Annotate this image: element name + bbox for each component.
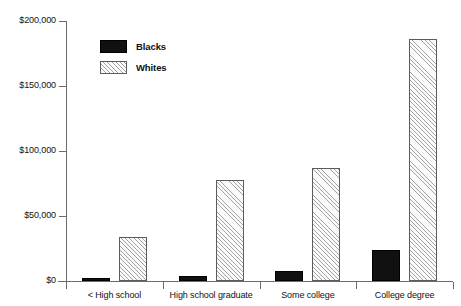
- y-axis-tick-label: $0: [0, 275, 56, 285]
- x-axis-category-label: High school graduate: [163, 290, 260, 300]
- x-axis-tick: [356, 282, 357, 289]
- chart-legend: Blacks Whites: [100, 38, 167, 80]
- bar-whites-0: [119, 237, 147, 281]
- x-axis-tick: [66, 282, 67, 289]
- x-axis-tick: [260, 282, 261, 289]
- bar-whites-1: [216, 180, 244, 281]
- legend-label-blacks: Blacks: [136, 41, 166, 52]
- legend-label-whites: Whites: [136, 62, 167, 73]
- x-axis-category-label: Some college: [260, 290, 357, 300]
- bar-whites-3: [409, 39, 437, 281]
- y-axis-tick-label: $200,000: [0, 15, 56, 25]
- bar-chart: $0$50,000$100,000$150,000$200,000 < High…: [0, 0, 461, 306]
- x-axis-category-label: < High school: [66, 290, 163, 300]
- legend-swatch-whites-icon: [100, 61, 127, 74]
- x-axis-category-label: College degree: [356, 290, 453, 300]
- bar-whites-2: [312, 168, 340, 281]
- legend-swatch-blacks-icon: [100, 40, 127, 53]
- x-axis-tick: [453, 282, 454, 289]
- legend-item-whites: Whites: [100, 59, 167, 76]
- legend-item-blacks: Blacks: [100, 38, 167, 55]
- bar-blacks-2: [275, 271, 303, 281]
- y-axis-tick-label: $50,000: [0, 210, 56, 220]
- bar-blacks-1: [179, 276, 207, 281]
- y-axis-tick-label: $100,000: [0, 145, 56, 155]
- bar-blacks-3: [372, 250, 400, 281]
- bar-blacks-0: [82, 278, 110, 281]
- y-axis-tick-label: $150,000: [0, 80, 56, 90]
- x-axis-tick: [163, 282, 164, 289]
- x-axis-line: [58, 281, 453, 282]
